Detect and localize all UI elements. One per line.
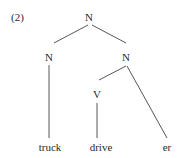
leaf-er: er [163,141,172,153]
tree-edges [0,0,184,158]
example-number: (2) [11,11,24,23]
edge-root-to-right-n [92,25,126,43]
edge-root-to-left-n [54,25,88,43]
edge-right-n-to-er [127,66,167,138]
leaf-drive: drive [90,141,113,153]
node-v: V [93,88,101,100]
node-root-n: N [85,11,93,23]
leaf-truck: truck [39,141,62,153]
node-right-n: N [122,51,130,63]
node-left-n: N [45,51,53,63]
edge-right-n-to-v [99,66,126,80]
